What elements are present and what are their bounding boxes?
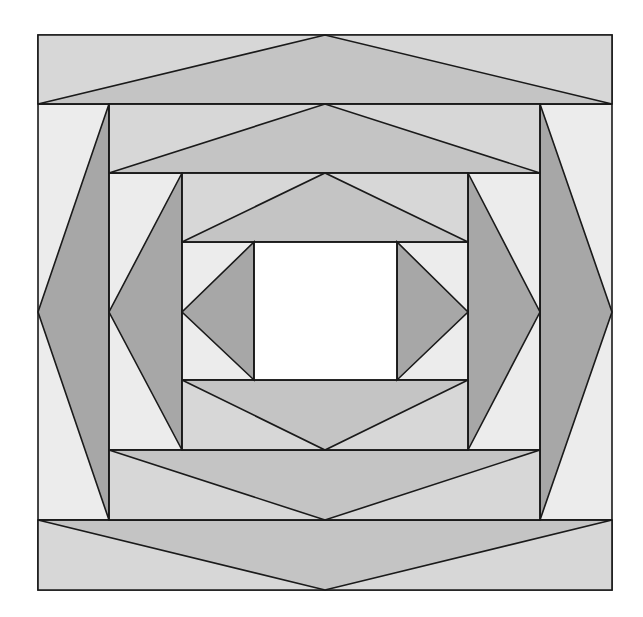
shape-layer xyxy=(38,35,612,590)
center-square xyxy=(254,242,397,380)
quilt-diagram: Quilt block — concentric rings of triang… xyxy=(0,0,643,617)
quilt-canvas xyxy=(0,0,643,617)
